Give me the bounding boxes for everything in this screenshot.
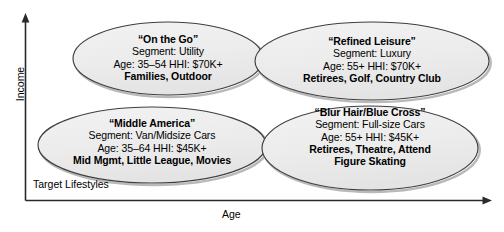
segment-demographics: Age: 55+ HHI: $45K+ — [270, 131, 470, 143]
segment-title: “Blur Hair/Blue Cross” — [270, 106, 470, 118]
segment-descriptor: Families, Outdoor — [68, 70, 268, 82]
segment-category: Segment: Luxury — [262, 47, 482, 59]
segment-card-middle-america[interactable]: “Middle America” Segment: Van/Midsize Ca… — [42, 117, 262, 166]
segment-demographics: Age: 55+ HHI: $70K+ — [262, 60, 482, 72]
segment-category: Segment: Utility — [68, 45, 268, 57]
lifestyle-segmentation-chart: Income Age Target Lifestyles “On the Go”… — [0, 0, 504, 232]
segment-title: “On the Go” — [68, 33, 268, 45]
segment-descriptor: Retirees, Golf, Country Club — [262, 72, 482, 84]
segment-descriptor: Retirees, Theatre, Attend — [270, 143, 470, 155]
segment-card-blur-hair-blue-cross[interactable]: “Blur Hair/Blue Cross” Segment: Full-siz… — [270, 106, 470, 167]
segment-card-on-the-go[interactable]: “On the Go” Segment: Utility Age: 35–54 … — [68, 33, 268, 82]
segment-category: Segment: Van/Midsize Cars — [42, 129, 262, 141]
segment-descriptor: Mid Mgmt, Little League, Movies — [42, 154, 262, 166]
segment-title: “Refined Leisure” — [262, 35, 482, 47]
segment-card-refined-leisure[interactable]: “Refined Leisure” Segment: Luxury Age: 5… — [262, 35, 482, 84]
segment-descriptor-continued: Figure Skating — [270, 155, 470, 167]
y-axis-label: Income — [14, 49, 26, 119]
x-axis-label: Age — [222, 208, 241, 220]
segment-demographics: Age: 35–64 HHI: $45K+ — [42, 142, 262, 154]
chart-caption: Target Lifestyles — [33, 178, 109, 190]
segment-title: “Middle America” — [42, 117, 262, 129]
segment-demographics: Age: 35–54 HHI: $70K+ — [68, 58, 268, 70]
segment-category: Segment: Full-size Cars — [270, 118, 470, 130]
